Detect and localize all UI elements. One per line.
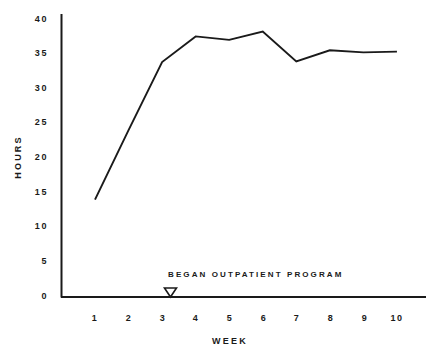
data-series-line	[95, 32, 397, 200]
line-chart-figure: 40 35 30 25 20 15 10 5 0 1 2 3 4 5 6 7 8…	[0, 0, 435, 361]
down-triangle-marker	[164, 288, 176, 297]
plot-area	[0, 0, 435, 361]
